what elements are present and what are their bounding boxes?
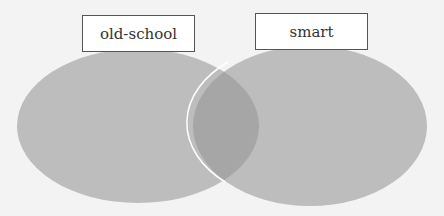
venn-diagram [0, 0, 444, 216]
label-old-school-text: old-school [100, 25, 177, 43]
label-smart-text: smart [289, 23, 333, 41]
label-old-school: old-school [82, 15, 195, 52]
label-smart: smart [255, 13, 368, 50]
